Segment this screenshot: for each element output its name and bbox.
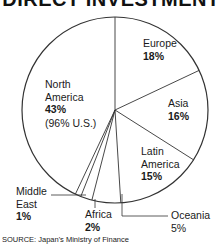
label-europe: Europe 18% [143,37,177,62]
label-latin-america: Latin America 15% [141,145,180,183]
label-africa: Africa 2% [85,208,112,233]
label-north-america: North America 43% (96% U.S.) [45,78,96,129]
source-note: SOURCE: Japan's Ministry of Finance [2,235,129,244]
label-middle-east: Middle East 1% [16,185,47,223]
label-oceania: Oceania 5% [171,209,210,234]
label-asia: Asia 16% [168,97,189,122]
